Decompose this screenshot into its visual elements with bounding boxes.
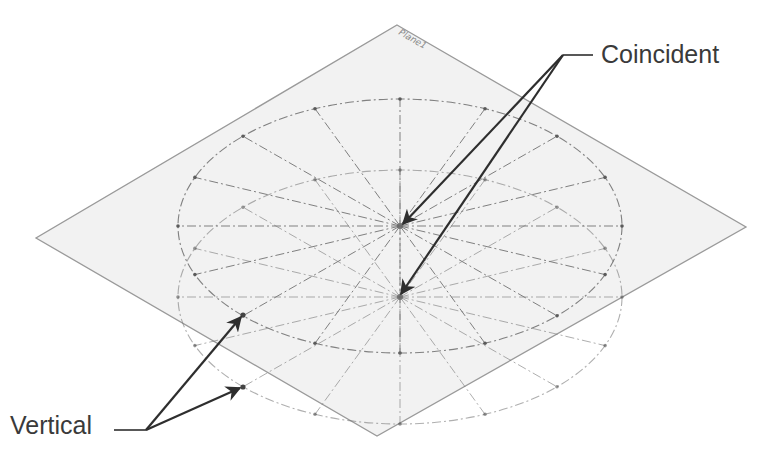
lower-ellipse-point (176, 295, 180, 299)
upper-ellipse-point (193, 176, 197, 180)
upper-ellipse-point (313, 342, 317, 346)
vertical-label: Vertical (10, 413, 92, 438)
lower-ellipse-point (193, 247, 197, 251)
upper-ellipse-point (483, 342, 487, 346)
lower-ellipse-center (397, 294, 403, 300)
sketch-diagram: Plane1 (0, 0, 761, 469)
upper-ellipse-point (176, 224, 180, 228)
coincident-label: Coincident (601, 42, 719, 67)
lower-ellipse-point (313, 413, 317, 417)
lower-ellipse-point (555, 385, 559, 389)
lower-ellipse-point (193, 344, 197, 348)
upper-ellipse-point (603, 176, 607, 180)
upper-ellipse-point (398, 97, 402, 101)
upper-ellipse-point (483, 107, 487, 111)
lower-ellipse-point (398, 422, 402, 426)
lower-ellipse-point (398, 168, 402, 172)
upper-ellipse-point (555, 134, 559, 138)
upper-ellipse-point (241, 134, 245, 138)
vertical-constraint-point (240, 384, 245, 389)
lower-ellipse-point (603, 344, 607, 348)
upper-ellipse-point (313, 107, 317, 111)
lower-ellipse-point (603, 247, 607, 251)
vertical-constraint-point (240, 312, 245, 317)
upper-ellipse-point (555, 314, 559, 318)
lower-ellipse-point (483, 413, 487, 417)
vertical-arrow-lower (146, 388, 240, 430)
upper-ellipse-point (603, 273, 607, 277)
lower-ellipse-point (555, 205, 559, 209)
lower-ellipse-point (241, 205, 245, 209)
lower-ellipse-point (620, 295, 624, 299)
upper-ellipse-point (620, 224, 624, 228)
lower-ellipse-point (483, 178, 487, 182)
plane1 (36, 25, 746, 436)
lower-ellipse-point (313, 178, 317, 182)
upper-ellipse-point (193, 273, 197, 277)
vertical-arrow-upper (146, 317, 241, 430)
